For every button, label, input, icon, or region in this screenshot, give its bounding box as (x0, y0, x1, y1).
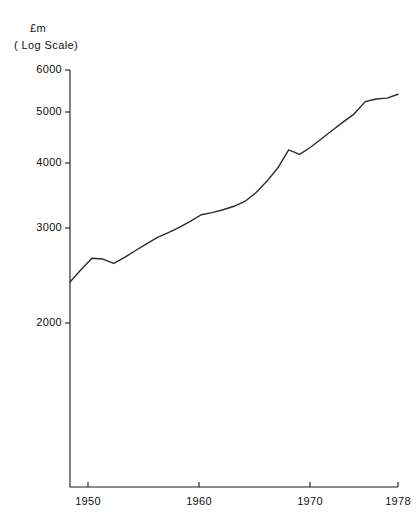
x-tick-label: 1950 (65, 496, 111, 507)
y-tick-marks (65, 70, 70, 323)
axis-spines (70, 70, 398, 487)
x-tick-label: 1970 (287, 496, 333, 507)
y-tick-label: 4000 (18, 157, 62, 168)
line-chart-plot (0, 0, 419, 530)
chart-figure: £m ( Log Scale) 60005000400030002000 195… (0, 0, 419, 530)
y-tick-label: 6000 (18, 64, 62, 75)
y-tick-label: 5000 (18, 106, 62, 117)
y-tick-label: 3000 (18, 222, 62, 233)
axes (65, 70, 398, 487)
y-tick-label: 2000 (18, 317, 62, 328)
x-tick-label: 1960 (176, 496, 222, 507)
data-series-line (70, 94, 398, 282)
x-tick-label: 1978 (375, 496, 419, 507)
x-tick-marks (88, 482, 398, 487)
